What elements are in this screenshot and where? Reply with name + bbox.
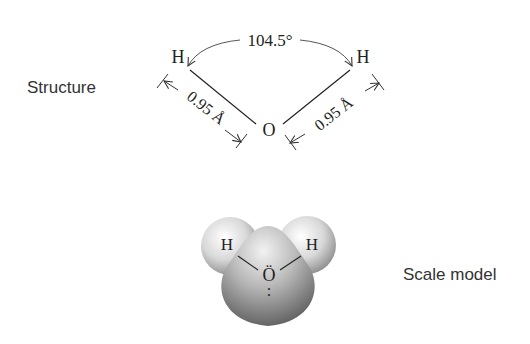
bond-angle-value: 104.5° bbox=[247, 31, 292, 50]
structure-diagram: 104.5° H H O 0.95 Å 0.95 Å bbox=[157, 31, 384, 150]
scale-model: H H Ö : bbox=[201, 216, 336, 326]
bond-length-right: 0.95 Å bbox=[311, 93, 356, 133]
hydrogen-left: H bbox=[172, 47, 185, 67]
bond-angle-arc-left bbox=[188, 40, 240, 66]
water-molecule-diagram: 104.5° H H O 0.95 Å 0.95 Å H H Ö : bbox=[0, 0, 530, 344]
hydrogen-right: H bbox=[357, 47, 370, 67]
oxygen: O bbox=[263, 120, 276, 140]
model-hydrogen-left: H bbox=[221, 235, 233, 254]
lone-pair: : bbox=[267, 282, 271, 299]
bond-length-left: 0.95 Å bbox=[184, 88, 229, 128]
model-hydrogen-right: H bbox=[306, 235, 318, 254]
bond-angle-arc-right bbox=[300, 40, 352, 66]
